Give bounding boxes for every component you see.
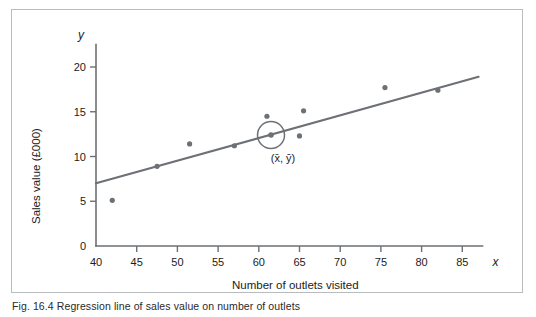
y-axis-title: Sales value (£000) <box>30 128 42 224</box>
x-axis-title: Number of outlets visited <box>232 279 359 291</box>
y-tick-label: 15 <box>12 106 86 118</box>
figure-caption: Fig. 16.4 Regression line of sales value… <box>12 300 300 312</box>
data-points-group <box>110 85 441 203</box>
figure-container: 40455055606570758085 05101520 Number of … <box>0 0 536 317</box>
mean-data-point <box>268 132 274 138</box>
data-point <box>382 85 387 90</box>
y-tick-label: 20 <box>12 61 86 73</box>
data-point <box>187 141 192 146</box>
x-axis-symbol: x <box>493 255 499 269</box>
x-tick-label: 40 <box>90 256 102 268</box>
data-point <box>110 198 115 203</box>
data-point <box>154 164 159 169</box>
x-tick-label: 70 <box>334 256 346 268</box>
scatter-plot-canvas <box>12 10 524 294</box>
data-point <box>264 114 269 119</box>
data-point <box>297 133 302 138</box>
x-tick-label: 60 <box>253 256 265 268</box>
data-point <box>301 108 306 113</box>
x-tick-label: 45 <box>131 256 143 268</box>
x-tick-label: 80 <box>415 256 427 268</box>
data-point <box>435 88 440 93</box>
x-tick-label: 75 <box>375 256 387 268</box>
x-tick-label: 50 <box>171 256 183 268</box>
regression-line-group <box>96 77 479 184</box>
x-tick-label: 65 <box>293 256 305 268</box>
plot-axes <box>90 45 483 252</box>
x-tick-label: 55 <box>212 256 224 268</box>
y-tick-label: 10 <box>12 151 86 163</box>
x-tick-label: 85 <box>456 256 468 268</box>
y-tick-label: 0 <box>12 240 86 252</box>
figure-frame: 40455055606570758085 05101520 Number of … <box>11 9 523 293</box>
mean-marker-group <box>258 122 285 149</box>
y-tick-label: 5 <box>12 195 86 207</box>
data-point <box>232 143 237 148</box>
mean-point-annotation: (x̄, ȳ) <box>271 152 295 164</box>
regression-line <box>96 77 479 184</box>
y-axis-symbol: y <box>78 28 84 42</box>
